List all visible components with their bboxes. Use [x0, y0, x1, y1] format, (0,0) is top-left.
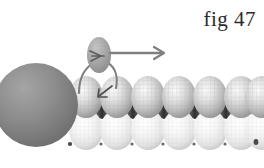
figure-container: fig 47 [0, 0, 264, 168]
figure-illustration [0, 0, 264, 168]
